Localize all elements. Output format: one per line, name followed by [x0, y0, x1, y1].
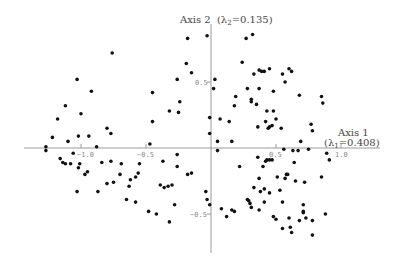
data-point	[304, 216, 308, 220]
data-point	[220, 207, 224, 211]
data-point	[294, 179, 298, 183]
data-point	[83, 173, 87, 177]
data-point	[251, 33, 255, 37]
data-point	[289, 225, 293, 229]
data-point	[299, 140, 303, 144]
data-point	[270, 158, 274, 162]
data-point	[148, 142, 152, 146]
data-point	[66, 140, 70, 144]
data-point	[105, 182, 109, 186]
data-point	[213, 78, 217, 82]
data-point	[274, 218, 278, 222]
data-point	[252, 72, 256, 76]
data-point	[311, 219, 315, 223]
data-point	[166, 185, 170, 189]
data-point	[298, 219, 302, 223]
data-point	[252, 186, 256, 190]
data-point	[257, 87, 261, 91]
data-point	[272, 109, 276, 113]
data-points	[44, 33, 331, 237]
data-point	[120, 162, 124, 166]
x-tick-label: 1.0	[335, 151, 348, 159]
data-point	[109, 159, 113, 163]
data-point	[255, 103, 259, 107]
data-point	[247, 199, 251, 203]
data-point	[270, 124, 274, 128]
data-point	[298, 93, 302, 97]
data-point	[281, 200, 285, 204]
data-point	[190, 71, 194, 75]
data-point	[276, 175, 280, 179]
data-point	[263, 187, 267, 191]
x-tick-label: −0.5	[137, 151, 154, 159]
data-point	[86, 170, 90, 174]
data-point	[136, 171, 140, 175]
scatter-plot: −1.0 −0.5 0.5 1.0 0.5 −0.5 Axis 2 (λ2=0.…	[0, 0, 400, 267]
data-point	[178, 100, 182, 104]
data-point	[78, 162, 82, 166]
data-point	[261, 165, 265, 169]
data-point	[208, 132, 212, 136]
data-point	[302, 211, 306, 215]
y-tick-label: 0.5	[195, 79, 208, 87]
data-point	[168, 220, 172, 224]
data-point	[186, 173, 190, 177]
data-point	[238, 165, 242, 169]
data-point	[263, 70, 267, 74]
data-point	[159, 183, 163, 187]
data-point	[272, 89, 276, 93]
data-point	[311, 129, 315, 133]
data-point	[64, 104, 68, 108]
data-point	[168, 109, 172, 113]
data-point	[274, 117, 278, 121]
data-point	[58, 157, 62, 161]
data-point	[272, 215, 276, 219]
data-point	[212, 87, 216, 91]
data-point	[161, 159, 165, 163]
data-point	[118, 173, 122, 177]
data-point	[151, 91, 155, 95]
data-point	[278, 188, 282, 192]
data-point	[257, 177, 261, 181]
data-point	[230, 140, 234, 144]
data-point	[175, 165, 179, 169]
data-point	[227, 120, 231, 124]
x-tick-label: −1.0	[77, 151, 94, 159]
data-point	[79, 112, 83, 116]
data-point	[109, 132, 113, 136]
data-point	[281, 72, 285, 76]
data-point	[250, 206, 254, 210]
data-point	[325, 152, 329, 156]
data-point	[218, 117, 222, 121]
data-point	[127, 185, 131, 189]
y-axis-title: Axis 2 (λ2=0.135)	[179, 14, 273, 27]
data-point	[244, 37, 248, 41]
data-point	[134, 200, 138, 204]
data-point	[208, 116, 212, 120]
data-point	[186, 37, 190, 41]
data-point	[268, 191, 272, 195]
data-point	[264, 120, 268, 124]
data-point	[287, 67, 291, 71]
data-point	[216, 149, 220, 153]
data-point	[283, 80, 287, 84]
data-point	[173, 203, 177, 207]
data-point	[204, 190, 208, 194]
data-point	[291, 149, 295, 153]
data-point	[234, 95, 238, 99]
data-point	[257, 208, 261, 212]
data-point	[190, 171, 194, 175]
data-point	[311, 233, 315, 237]
data-point	[44, 149, 48, 153]
data-point	[69, 162, 73, 166]
data-point	[328, 158, 332, 162]
data-point	[208, 203, 212, 207]
data-point	[56, 117, 60, 121]
data-point	[307, 148, 311, 152]
data-point	[246, 87, 250, 91]
data-point	[100, 161, 104, 165]
data-point	[302, 203, 306, 207]
data-point	[290, 231, 294, 235]
data-point	[77, 134, 81, 138]
data-point	[105, 126, 109, 130]
